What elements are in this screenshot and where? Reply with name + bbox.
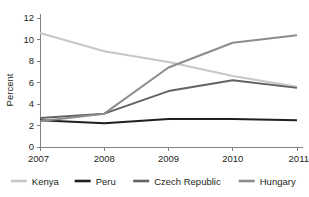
- x-tick-label: 2010: [222, 153, 243, 164]
- series-lines: [40, 33, 297, 123]
- y-tick-label: 8: [29, 55, 34, 66]
- x-tick-label: 2011: [289, 153, 309, 164]
- y-tick-label: 6: [29, 77, 34, 88]
- y-tick-label: 2: [29, 120, 34, 131]
- chart-canvas: 024681012 20072008200920102011 KenyaPeru…: [0, 0, 309, 197]
- series-line-peru: [40, 119, 297, 123]
- line-chart: 024681012 20072008200920102011 KenyaPeru…: [0, 0, 309, 197]
- legend-label-czech-republic: Czech Republic: [154, 176, 221, 187]
- y-tick-label: 12: [23, 12, 34, 23]
- x-tick-label: 2007: [28, 153, 49, 164]
- y-axis-title: Percent: [4, 73, 15, 106]
- y-tick-label: 4: [29, 98, 34, 109]
- x-tick-label: 2008: [94, 153, 115, 164]
- series-line-czech-republic: [40, 80, 297, 118]
- series-line-kenya: [40, 33, 297, 87]
- y-tick-label: 0: [29, 141, 34, 152]
- x-tick-label: 2009: [158, 153, 179, 164]
- y-tick-label: 10: [23, 34, 34, 45]
- chart-legend: KenyaPeruCzech RepublicHungary: [11, 176, 296, 187]
- legend-label-hungary: Hungary: [260, 176, 296, 187]
- legend-label-kenya: Kenya: [32, 176, 60, 187]
- x-axis: 20072008200920102011: [28, 147, 309, 164]
- series-line-hungary: [40, 35, 297, 121]
- legend-label-peru: Peru: [96, 176, 116, 187]
- y-axis: 024681012: [23, 12, 40, 152]
